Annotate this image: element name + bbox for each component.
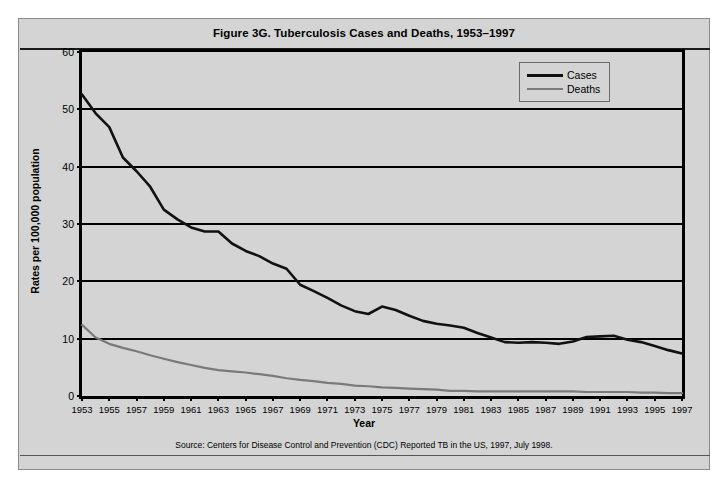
y-axis-label: Rates per 100,000 population <box>29 148 41 293</box>
x-tick-label: 1983 <box>481 404 502 415</box>
x-axis-label: Year <box>19 417 709 429</box>
x-tick-mark <box>599 396 601 401</box>
x-tick-label: 1979 <box>426 404 447 415</box>
x-tick-label: 1965 <box>235 404 256 415</box>
y-tick-label: 20 <box>62 275 74 287</box>
x-tick-mark <box>354 396 356 401</box>
x-tick-label: 1967 <box>262 404 283 415</box>
legend-label-cases: Cases <box>567 70 597 81</box>
series-line-deaths <box>82 325 682 393</box>
x-tick-label: 1969 <box>290 404 311 415</box>
legend: Cases Deaths <box>519 62 610 102</box>
x-tick-mark <box>408 396 410 401</box>
x-tick-label: 1955 <box>99 404 120 415</box>
y-tick-label: 0 <box>68 390 74 402</box>
series-plot <box>82 52 682 396</box>
x-tick-mark <box>190 396 192 401</box>
legend-swatch-deaths <box>527 88 563 91</box>
x-tick-label: 1977 <box>399 404 420 415</box>
x-tick-mark <box>545 396 547 401</box>
x-tick-label: 1973 <box>344 404 365 415</box>
x-tick-mark <box>272 396 274 401</box>
x-tick-label: 1957 <box>126 404 147 415</box>
y-tick-label: 60 <box>62 46 74 58</box>
x-tick-label: 1971 <box>317 404 338 415</box>
x-tick-label: 1953 <box>71 404 92 415</box>
x-tick-mark <box>245 396 247 401</box>
x-tick-label: 1985 <box>508 404 529 415</box>
legend-label-deaths: Deaths <box>567 84 600 95</box>
x-tick-mark <box>626 396 628 401</box>
x-tick-mark <box>463 396 465 401</box>
chart-title: Figure 3G. Tuberculosis Cases and Deaths… <box>19 27 709 39</box>
x-tick-mark <box>490 396 492 401</box>
x-tick-label: 1997 <box>671 404 692 415</box>
plot-area: 0102030405060 19531955195719591961196319… <box>79 49 685 399</box>
x-tick-mark <box>654 396 656 401</box>
y-tick-label: 10 <box>62 333 74 345</box>
x-tick-label: 1991 <box>590 404 611 415</box>
x-tick-label: 1987 <box>535 404 556 415</box>
x-tick-mark <box>299 396 301 401</box>
x-tick-mark <box>436 396 438 401</box>
x-tick-label: 1963 <box>208 404 229 415</box>
y-tick-label: 50 <box>62 103 74 115</box>
x-tick-mark <box>136 396 138 401</box>
x-tick-label: 1975 <box>371 404 392 415</box>
y-tick-label: 30 <box>62 218 74 230</box>
source-note: Source: Centers for Disease Control and … <box>19 440 709 450</box>
x-tick-mark <box>381 396 383 401</box>
y-tick-label: 40 <box>62 161 74 173</box>
legend-swatch-cases <box>527 74 563 77</box>
x-tick-mark <box>517 396 519 401</box>
source-divider <box>20 455 710 456</box>
x-tick-mark <box>681 396 683 401</box>
x-tick-label: 1981 <box>453 404 474 415</box>
x-tick-label: 1961 <box>181 404 202 415</box>
x-tick-label: 1989 <box>562 404 583 415</box>
x-tick-mark <box>217 396 219 401</box>
x-tick-mark <box>163 396 165 401</box>
x-tick-mark <box>326 396 328 401</box>
legend-item-cases: Cases <box>527 68 600 82</box>
x-tick-mark <box>81 396 83 401</box>
x-tick-label: 1993 <box>617 404 638 415</box>
legend-item-deaths: Deaths <box>527 82 600 96</box>
x-tick-mark <box>572 396 574 401</box>
x-tick-mark <box>108 396 110 401</box>
series-line-cases <box>82 94 682 353</box>
x-tick-label: 1959 <box>153 404 174 415</box>
x-tick-label: 1995 <box>644 404 665 415</box>
figure-container: Figure 3G. Tuberculosis Cases and Deaths… <box>18 18 710 470</box>
